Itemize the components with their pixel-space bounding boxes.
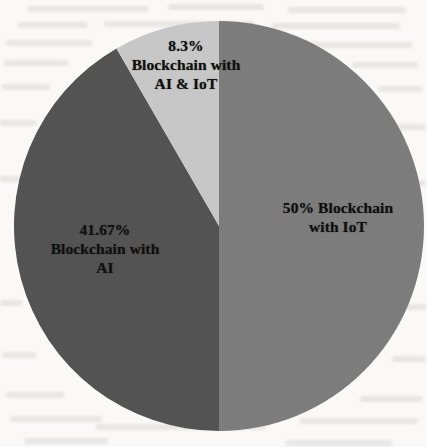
slice-label-text-line2: AI & IoT	[96, 74, 276, 93]
slice-label-text-line1: 50% Blockchain	[258, 198, 418, 217]
slice-label-blockchain-with-iot: 50% Blockchain with IoT	[258, 198, 418, 236]
pie-chart: 8.3% Blockchain with AI & IoT 41.67% Blo…	[0, 0, 427, 447]
slice-label-value: 8.3%	[96, 36, 276, 55]
slice-label-text-line2: with IoT	[258, 217, 418, 236]
slice-label-blockchain-with-ai: 41.67% Blockchain with AI	[10, 220, 200, 278]
slice-label-text-line1: Blockchain with	[96, 55, 276, 74]
slice-label-value: 41.67%	[10, 220, 200, 239]
slice-label-text-line1: Blockchain with	[10, 239, 200, 258]
scanned-page: 8.3% Blockchain with AI & IoT 41.67% Blo…	[0, 0, 427, 447]
slice-label-text-line2: AI	[10, 258, 200, 277]
slice-label-blockchain-with-ai-and-iot: 8.3% Blockchain with AI & IoT	[96, 36, 276, 94]
